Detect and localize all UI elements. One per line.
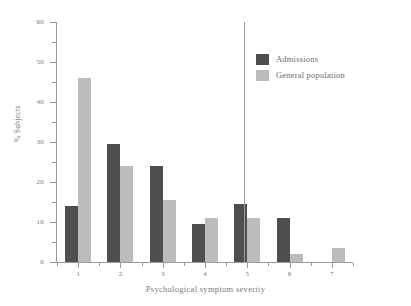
bar <box>120 166 133 262</box>
legend-label: General population <box>276 70 345 80</box>
x-tick-boundary-mark <box>99 263 100 266</box>
x-tick-boundary-mark <box>57 263 58 266</box>
x-tick-mark <box>78 263 79 268</box>
x-tick-boundary-mark <box>226 263 227 266</box>
x-tick-label: 3 <box>153 270 173 278</box>
y-tick-minor-mark <box>52 162 56 163</box>
y-tick-mark <box>50 102 56 103</box>
y-tick-label: 60 <box>0 19 44 26</box>
y-tick-mark <box>50 262 56 263</box>
bar <box>78 78 91 262</box>
x-tick-mark <box>332 263 333 268</box>
bar <box>332 248 345 262</box>
x-tick-label: 2 <box>110 270 130 278</box>
bar <box>107 144 120 262</box>
bar <box>192 224 205 262</box>
y-tick-minor-mark <box>52 82 56 83</box>
x-tick-label: 7 <box>322 270 342 278</box>
y-tick-label: 0 <box>0 259 44 266</box>
y-tick-minor-mark <box>52 122 56 123</box>
bar <box>234 204 247 262</box>
legend-item: Admissions <box>256 52 345 66</box>
x-tick-mark <box>247 263 248 268</box>
legend-label: Admissions <box>276 54 318 64</box>
bar <box>205 218 218 262</box>
x-tick-mark <box>290 263 291 268</box>
x-axis-title: Psychological symptom severity <box>0 284 411 294</box>
x-tick-label: 5 <box>237 270 257 278</box>
x-tick-label: 1 <box>68 270 88 278</box>
y-tick-mark <box>50 182 56 183</box>
y-tick-minor-mark <box>52 202 56 203</box>
x-tick-boundary-mark <box>142 263 143 266</box>
x-tick-boundary-mark <box>268 263 269 266</box>
y-tick-mark <box>50 62 56 63</box>
y-tick-label: 20 <box>0 179 44 186</box>
legend-item: General population <box>256 68 345 82</box>
y-tick-mark <box>50 222 56 223</box>
severity-threshold-divider <box>244 22 245 263</box>
legend: AdmissionsGeneral population <box>256 52 345 84</box>
y-tick-minor-mark <box>52 242 56 243</box>
y-tick-mark <box>50 142 56 143</box>
y-tick-label: 50 <box>0 59 44 66</box>
bar-chart: % Subjects 0102030405060 1234567 Psychol… <box>0 0 411 306</box>
x-tick-boundary-mark <box>353 263 354 266</box>
x-tick-mark <box>120 263 121 268</box>
x-tick-boundary-mark <box>184 263 185 266</box>
x-tick-mark <box>163 263 164 268</box>
x-tick-boundary-mark <box>311 263 312 266</box>
bar <box>163 200 176 262</box>
bar <box>290 254 303 262</box>
x-tick-label: 4 <box>195 270 215 278</box>
y-tick-mark <box>50 22 56 23</box>
legend-swatch <box>256 54 269 65</box>
bar <box>65 206 78 262</box>
y-tick-minor-mark <box>52 42 56 43</box>
x-tick-mark <box>205 263 206 268</box>
y-axis-title: % Subjects <box>13 105 22 142</box>
y-tick-label: 30 <box>0 139 44 146</box>
bar <box>150 166 163 262</box>
bar <box>247 218 260 262</box>
x-tick-label: 6 <box>280 270 300 278</box>
y-tick-label: 40 <box>0 99 44 106</box>
legend-swatch <box>256 70 269 81</box>
y-tick-label: 10 <box>0 219 44 226</box>
bar <box>277 218 290 262</box>
